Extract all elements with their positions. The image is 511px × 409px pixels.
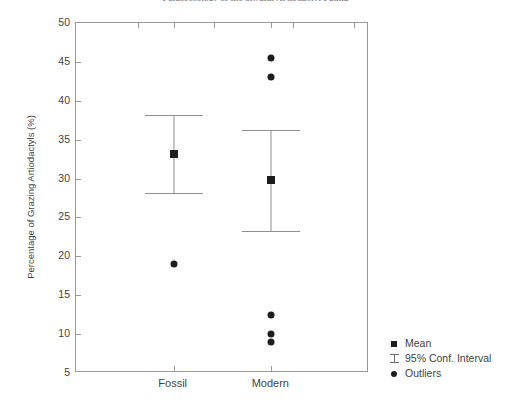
- y-axis-tick-label: 20: [44, 250, 70, 261]
- y-axis-tick-mark: [76, 334, 81, 335]
- y-axis-tick-mark: [76, 295, 81, 296]
- x-axis-minor-tick-top: [354, 23, 355, 28]
- x-axis-tick-mark-top: [271, 23, 272, 28]
- legend-item[interactable]: Mean: [389, 336, 509, 351]
- mean-marker: [170, 150, 178, 158]
- confidence-interval-lower-cap: [145, 193, 203, 194]
- y-axis-tick-label: 15: [44, 289, 70, 300]
- outlier-marker: [268, 55, 275, 62]
- legend-item[interactable]: 95% Conf. Interval: [389, 351, 509, 366]
- outlier-marker: [170, 261, 177, 268]
- legend-item-label: 95% Conf. Interval: [405, 353, 491, 364]
- y-axis-tick-mark: [76, 62, 81, 63]
- outlier-marker: [268, 74, 275, 81]
- square-marker-icon: [389, 336, 405, 351]
- x-axis-minor-tick-top: [214, 23, 215, 28]
- y-axis-tick-label: 40: [44, 95, 70, 106]
- plot-area: [75, 22, 368, 372]
- y-axis-tick-mark: [76, 217, 81, 218]
- y-axis-tick-label: 10: [44, 328, 70, 339]
- chart-legend: Mean95% Conf. IntervalOutliers: [389, 336, 509, 381]
- errorbar-icon: [389, 351, 405, 366]
- x-axis-tick-mark-top: [174, 23, 175, 28]
- mean-marker: [267, 176, 275, 184]
- x-axis-tick-labels: FossilModern: [75, 378, 368, 394]
- y-axis-tick-label: 35: [44, 133, 70, 144]
- x-axis-minor-tick-top: [293, 23, 294, 28]
- y-axis-tick-mark: [76, 140, 81, 141]
- confidence-interval-lower-cap: [242, 231, 300, 232]
- y-axis-tick-mark: [76, 256, 81, 257]
- confidence-interval-upper-cap: [145, 115, 203, 116]
- y-axis-tick-label: 30: [44, 172, 70, 183]
- outlier-marker: [268, 331, 275, 338]
- y-axis-tick-label: 5: [44, 367, 70, 378]
- x-axis-tick-mark: [174, 366, 175, 371]
- legend-item-label: Mean: [405, 338, 431, 349]
- y-axis-tick-label: 25: [44, 211, 70, 222]
- x-axis-tick-mark: [271, 366, 272, 371]
- outlier-marker: [268, 311, 275, 318]
- legend-item[interactable]: Outliers: [389, 366, 509, 381]
- y-axis-tick-mark: [76, 101, 81, 102]
- y-axis-tick-labels: 5101520253035404550: [42, 22, 70, 372]
- chart-title: Palaeoecology of the Siwalik Artiodactyl…: [0, 0, 511, 1]
- x-axis-tick-label: Fossil: [158, 378, 187, 389]
- x-axis-tick-label: Modern: [252, 378, 289, 389]
- chart-figure: Palaeoecology of the Siwalik Artiodactyl…: [0, 0, 511, 409]
- y-axis-tick-mark: [76, 179, 81, 180]
- outlier-marker: [268, 338, 275, 345]
- confidence-interval-upper-cap: [242, 130, 300, 131]
- circle-marker-icon: [389, 366, 405, 381]
- y-axis-title: Percentage of Grazing Artiodactyls (%): [24, 22, 38, 372]
- y-axis-tick-label: 50: [44, 17, 70, 28]
- x-axis-minor-tick-top: [138, 23, 139, 28]
- y-axis-tick-label: 45: [44, 56, 70, 67]
- legend-item-label: Outliers: [405, 368, 441, 379]
